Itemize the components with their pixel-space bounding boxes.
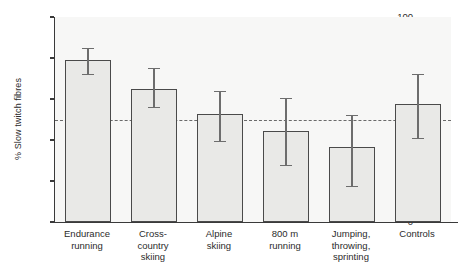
error-bar-cap-upper [148,68,160,69]
x-axis-category-label: Controls [384,228,450,240]
bar [131,89,177,222]
error-bar-line [417,74,418,138]
x-axis-category-label: Alpine skiing [186,228,252,251]
reference-line-50 [55,120,451,121]
error-bar-cap-lower [82,74,94,75]
error-bar-line [285,98,286,165]
x-axis-category-label: Jumping, throwing, sprinting [318,228,384,263]
bar [65,60,111,222]
plot-area [54,17,451,223]
error-bar-cap-lower [280,165,292,166]
error-bar-cap-lower [412,138,424,139]
error-bar-line [219,91,220,141]
error-bar-cap-lower [148,107,160,108]
error-bar-cap-lower [346,186,358,187]
x-axis-baseline [54,222,458,223]
error-bar-cap-upper [82,48,94,49]
error-bar-line [87,48,88,75]
error-bar-line [351,115,352,186]
x-axis-category-label: Endurance running [54,228,120,251]
bar-chart-figure: % Slow twitch fibres 020406080100 Endura… [0,0,471,272]
error-bar-cap-upper [214,91,226,92]
error-bar-cap-upper [346,115,358,116]
x-axis-category-label: Cross- country skiing [120,228,186,263]
y-axis-title: % Slow twitch fibres [13,78,23,160]
x-axis-category-label: 800 m running [252,228,318,251]
error-bar-cap-lower [214,141,226,142]
error-bar-line [153,68,154,107]
error-bar-cap-upper [280,98,292,99]
error-bar-cap-upper [412,74,424,75]
